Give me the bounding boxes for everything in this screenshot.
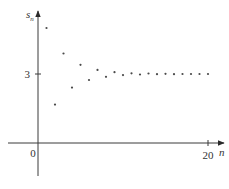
data-point — [181, 73, 183, 75]
data-point — [147, 72, 149, 74]
x-tick-label: 20 — [203, 149, 215, 161]
data-point — [88, 79, 90, 81]
data-point — [156, 73, 158, 75]
sequence-scatter-chart: 3 20 0 n sn — [0, 0, 229, 189]
data-point — [122, 74, 124, 76]
data-point — [105, 76, 107, 78]
y-axis-label: sn — [26, 8, 34, 23]
data-point — [96, 69, 98, 71]
data-point — [113, 71, 115, 73]
origin-label: 0 — [30, 147, 36, 159]
data-point — [164, 73, 166, 75]
data-point — [54, 104, 56, 106]
data-point — [71, 87, 73, 89]
data-points — [45, 27, 209, 106]
data-point — [62, 52, 64, 54]
data-point — [207, 73, 209, 75]
y-tick-label: 3 — [25, 68, 31, 80]
data-point — [45, 27, 47, 29]
data-point — [130, 72, 132, 74]
data-point — [198, 73, 200, 75]
x-axis-label: n — [219, 146, 225, 158]
data-point — [190, 73, 192, 75]
data-point — [173, 73, 175, 75]
data-point — [139, 73, 141, 75]
data-point — [79, 64, 81, 66]
